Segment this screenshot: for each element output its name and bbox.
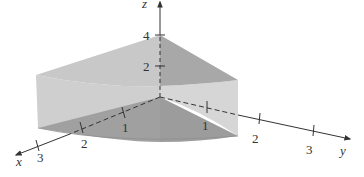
z-tick-label-4: 4 [143,28,150,43]
solid-top-right-face [160,35,238,86]
z-tick-label-2: 2 [143,59,150,74]
z-axis-label: z [141,0,147,11]
y-tick-3 [313,125,314,136]
3d-diagram: z 4 2 1 2 3 x 1 2 3 y [0,0,364,177]
y-axis-label: y [338,143,346,158]
y-tick-2 [259,113,260,124]
y-tick-label-1: 1 [202,118,209,133]
y-tick-label-3: 3 [306,142,313,157]
x-tick-label-3: 3 [37,150,44,165]
x-tick-label-2: 2 [81,136,88,151]
y-tick-label-2: 2 [252,131,259,146]
x-axis-label: x [15,154,22,169]
x-tick-label-1: 1 [122,120,129,135]
